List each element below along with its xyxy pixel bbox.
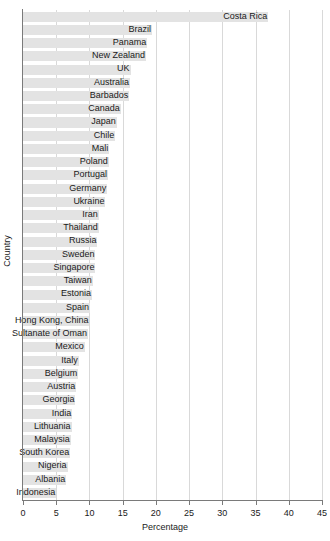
bar-row: Malaysia — [23, 434, 322, 447]
bar-value-label: Singapore — [53, 261, 95, 274]
bar-row: Barbados — [23, 89, 322, 102]
bar-value-label: Austria — [47, 380, 76, 393]
bar-row: Albania — [23, 473, 322, 486]
x-axis-tick-label: 5 — [54, 508, 59, 518]
bar-row: Taiwan — [23, 275, 322, 288]
x-axis-tick-label: 0 — [20, 508, 25, 518]
x-axis-tick — [322, 500, 323, 505]
bar-value-label: Germany — [69, 182, 107, 195]
gridline — [322, 10, 323, 500]
bar-row: Nigeria — [23, 460, 322, 473]
bar-row: Thailand — [23, 222, 322, 235]
x-axis-line — [22, 500, 323, 501]
bar-row: South Korea — [23, 447, 322, 460]
bar-row: Italy — [23, 354, 322, 367]
bar-row: Poland — [23, 156, 322, 169]
bar-row: Panama — [23, 36, 322, 49]
bar-row: Estonia — [23, 288, 322, 301]
bar-value-label: New Zealand — [92, 49, 146, 62]
bar-value-label: Mexico — [55, 340, 85, 353]
x-axis-tick — [189, 500, 190, 505]
x-axis-tick-label: 10 — [84, 508, 94, 518]
bar-value-label: Estonia — [61, 287, 92, 300]
x-axis-tick-label: 40 — [284, 508, 294, 518]
x-axis-tick-label: 15 — [118, 508, 128, 518]
bar-row: Mexico — [23, 341, 322, 354]
bar-value-label: Spain — [66, 301, 90, 314]
bar-row: Sweden — [23, 248, 322, 261]
bar-row: Hong Kong, China — [23, 314, 322, 327]
bar-row: Portugal — [23, 169, 322, 182]
bar-row: Spain — [23, 301, 322, 314]
bar-row: Lithuania — [23, 420, 322, 433]
x-axis-tick-label: 35 — [251, 508, 261, 518]
plot-area: Costa RicaBrazilPanamaNew ZealandUKAustr… — [23, 10, 322, 500]
bar-value-label: Costa Rica — [223, 10, 268, 23]
bar-row: UK — [23, 63, 322, 76]
bar-value-label: South Korea — [19, 446, 70, 459]
bar-row: Singapore — [23, 261, 322, 274]
x-axis-tick — [23, 500, 24, 505]
bar-row: Costa Rica — [23, 10, 322, 23]
x-axis-tick — [89, 500, 90, 505]
bar-value-label: Canada — [88, 102, 121, 115]
bar-value-label: UK — [117, 62, 131, 75]
bar-value-label: Ukraine — [73, 195, 105, 208]
x-axis-tick — [123, 500, 124, 505]
bar-row: Japan — [23, 116, 322, 129]
bar[interactable] — [23, 65, 131, 75]
x-axis-tick — [156, 500, 157, 505]
bar-row: Mali — [23, 142, 322, 155]
bar-value-label: Hong Kong, China — [15, 314, 90, 327]
bar-value-label: Thailand — [63, 221, 99, 234]
bar-row: Germany — [23, 182, 322, 195]
bar-row: India — [23, 407, 322, 420]
bar-value-label: Australia — [94, 76, 130, 89]
bar-row: Ukraine — [23, 195, 322, 208]
bar-row: Indonesia — [23, 486, 322, 499]
bar-value-label: India — [52, 407, 73, 420]
bar-value-label: Japan — [91, 115, 117, 128]
bar-value-label: Russia — [69, 234, 98, 247]
x-axis-tick — [222, 500, 223, 505]
bar-value-label: Malaysia — [34, 433, 71, 446]
bar-value-label: Italy — [61, 354, 79, 367]
bar-row: Canada — [23, 103, 322, 116]
bar-value-label: Iran — [82, 208, 99, 221]
bar-row: Brazil — [23, 23, 322, 36]
bar-value-label: Mali — [92, 142, 110, 155]
x-axis-tick-label: 30 — [217, 508, 227, 518]
bar-row: New Zealand — [23, 50, 322, 63]
bar-row: Belgium — [23, 367, 322, 380]
bar-value-label: Georgia — [42, 393, 75, 406]
bar-row: Georgia — [23, 394, 322, 407]
x-axis-tick-label: 25 — [184, 508, 194, 518]
bar-value-label: Barbados — [90, 89, 130, 102]
x-axis-title: Percentage — [0, 522, 330, 532]
x-axis-tick — [256, 500, 257, 505]
bar-value-label: Lithuania — [34, 420, 72, 433]
bar-row: Chile — [23, 129, 322, 142]
bar-value-label: Nigeria — [38, 459, 68, 472]
x-axis-tick-label: 45 — [317, 508, 327, 518]
bar-value-label: Albania — [35, 473, 66, 486]
x-axis-tick — [289, 500, 290, 505]
bar-value-label: Panama — [113, 36, 148, 49]
x-axis-tick-label: 20 — [151, 508, 161, 518]
y-axis-line — [22, 9, 23, 501]
bar-row: Russia — [23, 235, 322, 248]
bar-row: Sultanate of Oman — [23, 328, 322, 341]
bar-value-label: Sweden — [62, 248, 96, 261]
x-axis-tick — [56, 500, 57, 505]
bar-value-label: Sultanate of Oman — [12, 327, 88, 340]
bar-chart: Costa RicaBrazilPanamaNew ZealandUKAustr… — [0, 0, 330, 541]
bar-row: Iran — [23, 209, 322, 222]
bar-value-label: Poland — [80, 155, 109, 168]
bar-value-label: Taiwan — [64, 274, 93, 287]
bar-value-label: Brazil — [128, 23, 152, 36]
bar-value-label: Portugal — [74, 168, 109, 181]
bar-row: Austria — [23, 381, 322, 394]
y-axis-title: Country — [2, 221, 12, 281]
bar-value-label: Chile — [94, 129, 116, 142]
bar-value-label: Belgium — [45, 367, 79, 380]
